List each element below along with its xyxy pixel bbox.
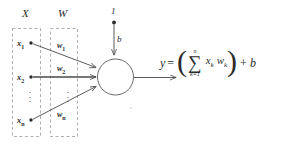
inputs-vertical-ellipsis: · · · (23, 90, 37, 104)
bias-source-label: 1 (111, 7, 116, 16)
output-formula: y = ( n ∑ k=1 xk wk ) + b (160, 48, 256, 77)
input-label-x2-sub: 2 (21, 78, 24, 84)
formula-term-x: xk (206, 55, 214, 69)
weight-label-w1-sub: 1 (62, 46, 65, 52)
formula-summation: n ∑ k=1 (188, 48, 202, 77)
scan-speck (130, 107, 132, 109)
formula-equals: = (167, 57, 174, 69)
weights-group-label: W (58, 8, 67, 19)
weight-label-wn-sub: n (62, 115, 65, 121)
formula-term-w: wk (217, 55, 227, 69)
sigma-icon: ∑ (188, 53, 202, 72)
weight-label-wn: wn (57, 111, 66, 121)
weight-label-w1: w1 (57, 42, 65, 52)
formula-term-x-sub: k (211, 62, 214, 70)
ellipsis-dot: · (61, 99, 75, 104)
formula-term-w-base: w (217, 54, 224, 66)
formula-bias-term: b (250, 57, 256, 69)
neuron-diagram: X W x1 x2 xn w1 w2 wn · · · · · · 1 b y … (0, 0, 285, 148)
neuron-body (98, 59, 134, 95)
input-dot-x1 (29, 41, 32, 44)
formula-open-paren: ( (177, 49, 187, 74)
weights-vertical-ellipsis: · · · (61, 90, 75, 104)
input-label-xn: xn (17, 116, 25, 127)
input-label-x1: x1 (17, 39, 24, 50)
formula-output-var: y (160, 57, 165, 69)
input-dot-xn (29, 118, 32, 121)
input-dot-x2 (29, 75, 32, 78)
input-label-xn-sub: n (21, 121, 24, 127)
inputs-group-label: X (22, 8, 29, 19)
input-label-x2: x2 (17, 73, 24, 84)
weight-label-w2: w2 (57, 65, 65, 75)
weight-label-w2-sub: 2 (62, 69, 65, 75)
ellipsis-dot: · (23, 99, 37, 104)
formula-close-paren: ) (227, 49, 237, 74)
bias-source-dot (112, 21, 116, 25)
bias-weight-label: b (117, 35, 122, 44)
input-label-x1-sub: 1 (21, 44, 24, 50)
formula-lower-limit: k=1 (190, 71, 200, 77)
formula-plus: + (240, 57, 247, 69)
